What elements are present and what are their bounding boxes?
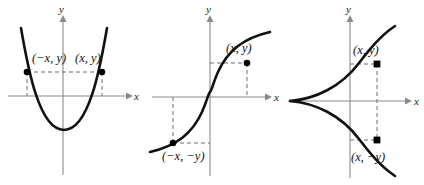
point-marker-right — [99, 69, 106, 76]
y-axis-arrow-icon — [207, 15, 214, 22]
x-axis-arrow-icon — [265, 94, 272, 101]
parabola-curve — [21, 28, 107, 130]
y-axis-arrow-icon — [60, 15, 67, 22]
point-label-x-y: (x, y) — [353, 43, 379, 57]
panel-origin-symmetry: (x, y) (−x, −y) y x — [140, 0, 285, 185]
x-axis-label: x — [413, 95, 419, 107]
y-axis-label: y — [58, 3, 64, 15]
point-label-x-y: (x, y) — [75, 51, 101, 65]
point-marker-left — [24, 69, 31, 76]
panel-2-canvas: (x, y) (−x, −y) y x — [140, 0, 285, 185]
y-axis-arrow-icon — [347, 15, 354, 22]
x-axis-arrow-icon — [405, 98, 412, 105]
point-marker-lower — [170, 140, 177, 147]
x-axis-arrow-icon — [126, 93, 133, 100]
point-label-x-y: (x, y) — [226, 41, 252, 55]
panel-x-axis-symmetry: (x, y) (x, −y) y x — [285, 0, 424, 185]
y-axis-label: y — [205, 3, 211, 15]
point-label-neg-x-y: (−x, y) — [32, 51, 66, 65]
y-axis-label: y — [345, 3, 351, 15]
point-marker-upper — [374, 61, 381, 68]
point-label-neg-x-neg-y: (−x, −y) — [162, 149, 205, 163]
panel-1-canvas: (−x, y) (x, y) y x — [0, 0, 140, 185]
point-marker-lower — [374, 137, 381, 144]
point-marker-upper — [244, 60, 251, 67]
panel-3-canvas: (x, y) (x, −y) y x — [285, 0, 424, 185]
symmetry-figure: (−x, y) (x, y) y x (x, y) ( — [0, 0, 424, 185]
point-label-x-neg-y: (x, −y) — [351, 150, 385, 164]
panel-y-axis-symmetry: (−x, y) (x, y) y x — [0, 0, 140, 185]
x-axis-label: x — [273, 91, 279, 103]
x-axis-label: x — [133, 90, 139, 102]
